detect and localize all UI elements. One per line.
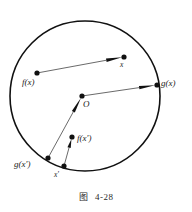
- point-O: [79, 93, 84, 98]
- figure-container: xf(x)Og(x)f(x')x'g(x') 图4-28: [0, 0, 192, 212]
- figure-caption: 图4-28: [0, 190, 192, 203]
- label-x: x: [120, 61, 123, 69]
- label-gx: g(x): [161, 79, 176, 88]
- label-gxp: g(x'): [14, 160, 30, 169]
- circle-outline: [10, 21, 160, 171]
- boundary-circle: [10, 21, 160, 171]
- arrow-gxp-to-up-shaft: [48, 112, 73, 158]
- point-gxp: [45, 155, 50, 160]
- label-fxp: f(x'): [77, 134, 91, 143]
- arrow-O-to-gx-shaft: [82, 88, 139, 96]
- point-fxp: [69, 134, 74, 139]
- point-gx: [154, 82, 159, 87]
- arrow-O-to-gx-head: [139, 85, 155, 89]
- label-O: O: [83, 100, 90, 109]
- point-x: [121, 54, 126, 59]
- point-xp: [61, 163, 66, 168]
- arrow-xp-to-fxp: [64, 139, 71, 166]
- arrow-xp-to-fxp-shaft: [64, 148, 69, 166]
- arrow-fx-to-x: [37, 57, 122, 73]
- geometry-diagram: [0, 0, 192, 212]
- caption-word: 图: [79, 192, 89, 202]
- arrow-gxp-to-up: [48, 98, 81, 158]
- label-fx: f(x): [22, 78, 35, 87]
- caption-number: 4-28: [95, 192, 114, 202]
- arrow-O-to-gx: [82, 85, 155, 96]
- arrow-gxp-to-up-head: [72, 98, 81, 113]
- label-xp: x': [54, 171, 59, 179]
- point-fx: [34, 70, 39, 75]
- arrow-fx-to-x-shaft: [37, 60, 106, 73]
- point-markers: [34, 54, 159, 168]
- arrow-xp-to-fxp-head: [67, 139, 71, 148]
